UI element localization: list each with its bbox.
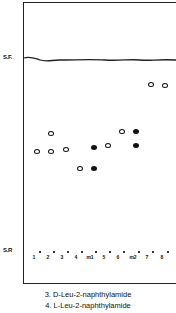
origin-dot [53, 251, 55, 253]
lane-label-m1: m1 [86, 254, 93, 260]
lane-label-m2: m2 [129, 254, 136, 260]
lane-label-7: 7 [146, 254, 149, 260]
origin-dot [39, 251, 41, 253]
solvent-front-label: S.F. [3, 54, 12, 60]
origin-dot [109, 251, 111, 253]
lane-label-5: 5 [103, 254, 106, 260]
spot-lane-3 [63, 147, 69, 152]
spot-lane-2 [48, 149, 54, 154]
spot-lane-6 [119, 129, 125, 134]
origin-dot [81, 251, 83, 253]
spot-lane-2 [48, 131, 54, 136]
origin-dot [95, 251, 97, 253]
origin-dot [123, 251, 125, 253]
spot-lane-1 [34, 149, 40, 154]
spot-lane-m1 [91, 145, 97, 150]
caption-3: 3. D-Leu-2-naphthylamide [0, 290, 176, 299]
spot-lane-m1 [91, 166, 97, 171]
spot-lane-m2 [133, 143, 139, 148]
origin-dot [138, 251, 140, 253]
lane-label-4: 4 [75, 254, 78, 260]
lane-label-8: 8 [161, 254, 164, 260]
spot-lane-7 [148, 82, 154, 87]
spot-lane-5 [105, 143, 111, 148]
spot-lane-8 [162, 83, 168, 88]
lane-label-1: 1 [33, 254, 36, 260]
solvent-front-line [0, 0, 176, 313]
lane-label-3: 3 [61, 254, 64, 260]
caption-4: 4. L-Leu-2-naphthylamide [0, 301, 176, 310]
spot-lane-4 [77, 166, 83, 171]
origin-dot [67, 251, 69, 253]
start-line-label: S.R [3, 247, 12, 253]
origin-dot [167, 251, 169, 253]
lane-label-2: 2 [47, 254, 50, 260]
spot-lane-m2 [133, 129, 139, 134]
lane-label-6: 6 [117, 254, 120, 260]
origin-dot [152, 251, 154, 253]
